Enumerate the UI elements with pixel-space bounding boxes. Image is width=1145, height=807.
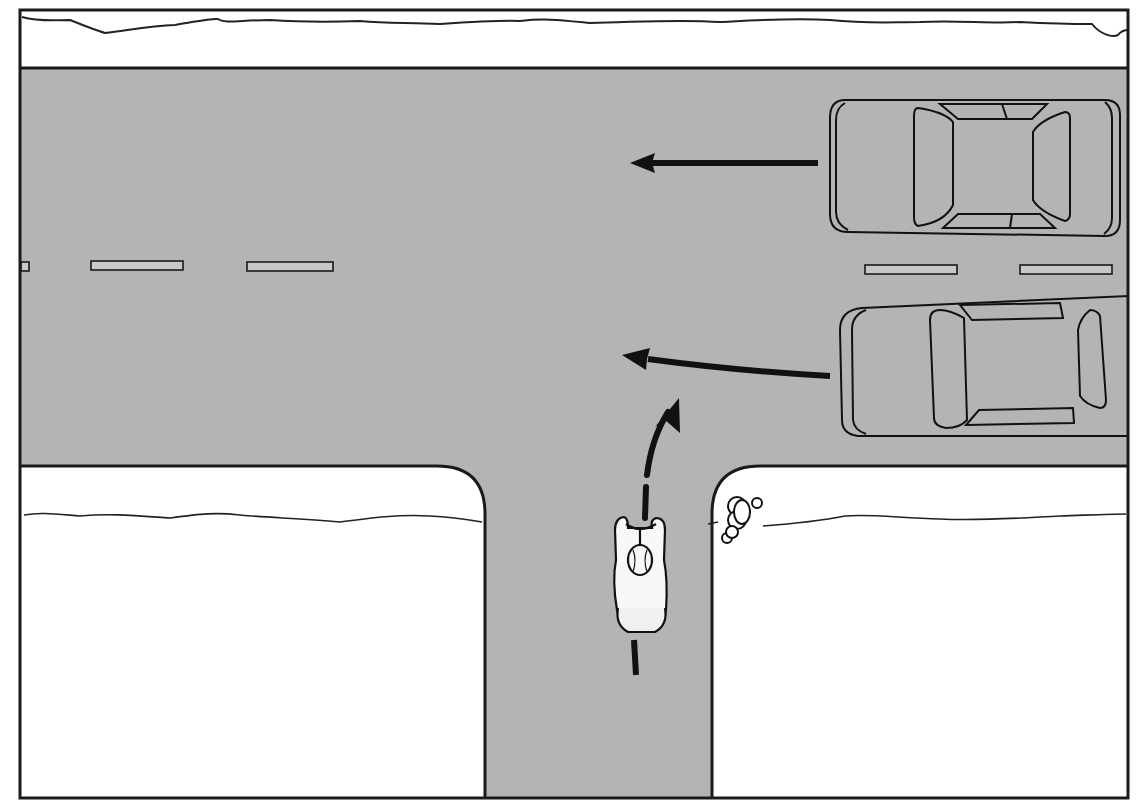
car-lower-lane [840, 296, 1128, 436]
car-upper-lane [830, 100, 1120, 236]
traffic-diagram [0, 0, 1145, 807]
